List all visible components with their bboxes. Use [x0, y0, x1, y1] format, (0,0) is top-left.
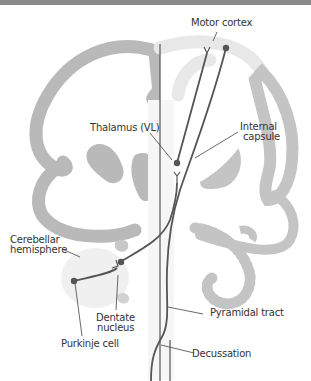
left-cortex — [36, 47, 152, 237]
label-internal-capsule-2: capsule — [243, 131, 280, 142]
left-ventricle — [86, 144, 123, 183]
label-cerebellar-hemisphere-2: hemisphere — [10, 244, 67, 255]
label-pyramidal-tract: Pyramidal tract — [210, 307, 284, 318]
motor-cortex-cell-body — [223, 45, 229, 51]
dentate-cell-body — [118, 259, 124, 265]
label-dentate-nucleus-2: nucleus — [97, 322, 134, 333]
label-decussation: Decussation — [192, 348, 251, 359]
right-thalamus — [200, 148, 241, 189]
brain-diagram — [0, 0, 311, 381]
thalamus-cell-body — [174, 160, 180, 166]
purkinje-cell-body — [71, 278, 77, 284]
label-thalamus: Thalamus (VL) — [90, 122, 160, 133]
label-motor-cortex: Motor cortex — [191, 17, 252, 28]
label-purkinje-cell: Purkinje cell — [61, 338, 119, 349]
